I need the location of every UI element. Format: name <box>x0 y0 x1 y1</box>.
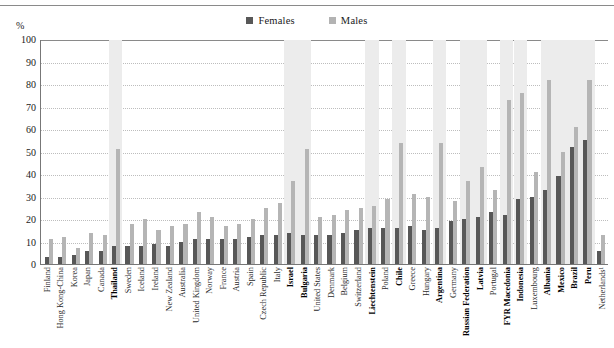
bar-males[interactable] <box>520 93 524 264</box>
bar-males[interactable] <box>507 100 511 264</box>
bar-group[interactable] <box>204 40 217 264</box>
bar-group[interactable] <box>460 40 473 264</box>
bar-group[interactable] <box>527 40 540 264</box>
bar-males[interactable] <box>264 208 268 264</box>
bar-group[interactable] <box>284 40 297 264</box>
bar-males[interactable] <box>547 80 551 265</box>
bar-group[interactable] <box>298 40 311 264</box>
bar-group[interactable] <box>231 40 244 264</box>
bar-group[interactable] <box>311 40 324 264</box>
bar-group[interactable] <box>244 40 257 264</box>
bar-group[interactable] <box>365 40 378 264</box>
bar-males[interactable] <box>49 239 53 264</box>
bar-males[interactable] <box>62 237 66 264</box>
bar-males[interactable] <box>574 127 578 264</box>
bar-males[interactable] <box>224 226 228 264</box>
bar-males[interactable] <box>197 212 201 264</box>
bar-males[interactable] <box>116 149 120 264</box>
bar-group[interactable] <box>419 40 432 264</box>
x-tick-label-text: Hong Kong-China <box>57 267 65 329</box>
bar-males[interactable] <box>278 203 282 264</box>
bar-group[interactable] <box>406 40 419 264</box>
bar-males[interactable] <box>170 226 174 264</box>
bar-males[interactable] <box>493 190 497 264</box>
x-tick-label: Italy <box>271 266 285 348</box>
bar-group[interactable] <box>55 40 68 264</box>
x-tick-label-text: United Kingdom <box>192 267 200 323</box>
bar-males[interactable] <box>237 224 241 265</box>
bar-group[interactable] <box>338 40 351 264</box>
bar-group[interactable] <box>136 40 149 264</box>
bar-males[interactable] <box>318 217 322 264</box>
bar-group[interactable] <box>271 40 284 264</box>
bar-group[interactable] <box>258 40 271 264</box>
x-tick-label-text: Canada <box>98 267 106 292</box>
x-tick-label-text: Peru <box>585 267 593 284</box>
bar-males[interactable] <box>601 235 605 264</box>
bar-group[interactable] <box>433 40 446 264</box>
bar-males[interactable] <box>480 167 484 264</box>
bar-males[interactable] <box>251 219 255 264</box>
x-tick-label: Bulgaria <box>298 266 312 348</box>
bar-group[interactable] <box>446 40 459 264</box>
x-tick-label: Liechtenstein <box>366 266 380 348</box>
bar-males[interactable] <box>359 208 363 264</box>
bar-males[interactable] <box>587 80 591 265</box>
bar-males[interactable] <box>143 219 147 264</box>
bar-group[interactable] <box>352 40 365 264</box>
bar-group[interactable] <box>177 40 190 264</box>
bar-group[interactable] <box>163 40 176 264</box>
bar-males[interactable] <box>466 181 470 264</box>
bar-males[interactable] <box>399 143 403 265</box>
bar-group[interactable] <box>486 40 499 264</box>
plot-area <box>40 40 608 265</box>
bar-group[interactable] <box>69 40 82 264</box>
bar-group[interactable] <box>109 40 122 264</box>
bar-group[interactable] <box>190 40 203 264</box>
y-tick-label: 40 <box>0 170 36 180</box>
bar-group[interactable] <box>554 40 567 264</box>
x-tick-label-text: Hungary <box>422 267 430 296</box>
bar-group[interactable] <box>513 40 526 264</box>
bar-males[interactable] <box>372 206 376 265</box>
bar-group[interactable] <box>392 40 405 264</box>
bar-males[interactable] <box>561 152 565 265</box>
bar-group[interactable] <box>379 40 392 264</box>
bar-males[interactable] <box>103 235 107 264</box>
bar-group[interactable] <box>42 40 55 264</box>
bar-males[interactable] <box>412 194 416 264</box>
bar-males[interactable] <box>385 199 389 264</box>
bar-males[interactable] <box>291 181 295 264</box>
bar-group[interactable] <box>594 40 607 264</box>
bar-males[interactable] <box>439 143 443 265</box>
bar-males[interactable] <box>76 248 80 264</box>
bar-males[interactable] <box>210 217 214 264</box>
x-tick-label-text: Austria <box>233 267 241 291</box>
bar-group[interactable] <box>581 40 594 264</box>
bar-males[interactable] <box>130 224 134 265</box>
x-tick-label-text: Belgium <box>341 267 349 296</box>
bar-group[interactable] <box>217 40 230 264</box>
bar-males[interactable] <box>332 215 336 265</box>
bar-males[interactable] <box>89 233 93 265</box>
y-axis-unit-label: % <box>16 20 24 31</box>
bar-males[interactable] <box>305 149 309 264</box>
bar-males[interactable] <box>156 230 160 264</box>
bar-males[interactable] <box>453 201 457 264</box>
bar-group[interactable] <box>500 40 513 264</box>
bar-group[interactable] <box>150 40 163 264</box>
bar-group[interactable] <box>96 40 109 264</box>
bar-group[interactable] <box>540 40 553 264</box>
x-tick-label-text: Argentina <box>436 267 444 303</box>
bar-males[interactable] <box>426 197 430 265</box>
bar-group[interactable] <box>82 40 95 264</box>
y-tick-label: 70 <box>0 103 36 113</box>
bar-group[interactable] <box>567 40 580 264</box>
bar-group[interactable] <box>473 40 486 264</box>
y-tick-label: 20 <box>0 215 36 225</box>
bar-males[interactable] <box>534 172 538 264</box>
bar-group[interactable] <box>325 40 338 264</box>
bar-males[interactable] <box>183 224 187 265</box>
bar-males[interactable] <box>345 210 349 264</box>
bar-group[interactable] <box>123 40 136 264</box>
